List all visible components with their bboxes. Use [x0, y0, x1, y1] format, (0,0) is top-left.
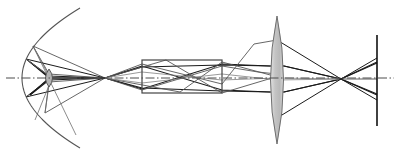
optical-diagram-container [0, 0, 400, 156]
optical-diagram-canvas [0, 0, 400, 156]
